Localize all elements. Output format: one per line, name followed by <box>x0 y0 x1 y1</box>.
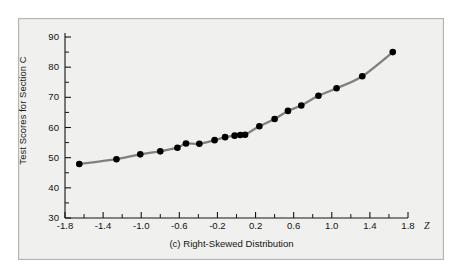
y-tick-label: 70 <box>33 91 59 102</box>
x-axis-title: Z <box>424 220 430 231</box>
y-axis-ticks <box>65 37 71 218</box>
data-point <box>174 144 181 151</box>
data-point <box>183 140 190 147</box>
figure-caption: (c) Right-Skewed Distribution <box>0 238 463 249</box>
data-point <box>211 137 218 144</box>
data-point <box>359 73 366 80</box>
y-tick-label: 60 <box>33 122 59 133</box>
data-point <box>76 161 83 168</box>
x-tick-label: 0.6 <box>274 220 314 231</box>
data-point <box>256 123 263 130</box>
x-axis-ticks <box>65 212 408 218</box>
x-tick-label: 0.2 <box>236 220 276 231</box>
chart-plot-area <box>0 0 463 278</box>
data-point <box>196 140 203 147</box>
x-tick-label: -1.4 <box>83 220 123 231</box>
data-point <box>113 156 120 163</box>
data-point <box>137 151 144 158</box>
x-tick-label: 1.0 <box>312 220 352 231</box>
y-axis-title: Test Scores for Section C <box>17 26 28 196</box>
data-point <box>389 49 396 56</box>
figure-container: Test Scores for Section C 30405060708090… <box>0 0 463 278</box>
data-point <box>242 131 249 138</box>
data-trend-line <box>79 52 392 164</box>
data-point <box>298 102 305 109</box>
data-point <box>315 93 322 100</box>
x-tick-label: 1.4 <box>350 220 390 231</box>
x-tick-label: 1.8 <box>388 220 428 231</box>
x-tick-label: -0.6 <box>159 220 199 231</box>
x-tick-label: -1.8 <box>45 220 85 231</box>
y-tick-label: 90 <box>33 31 59 42</box>
data-point <box>231 132 238 139</box>
y-tick-label: 80 <box>33 61 59 72</box>
data-point-markers <box>76 49 396 168</box>
x-tick-label: -1.0 <box>121 220 161 231</box>
data-point <box>285 108 292 115</box>
data-point <box>271 116 278 123</box>
x-tick-label: -0.2 <box>197 220 237 231</box>
data-point <box>157 148 164 155</box>
y-tick-label: 50 <box>33 152 59 163</box>
y-tick-label: 40 <box>33 182 59 193</box>
data-point <box>222 134 229 141</box>
data-point <box>333 85 340 92</box>
axis-lines <box>65 33 408 218</box>
